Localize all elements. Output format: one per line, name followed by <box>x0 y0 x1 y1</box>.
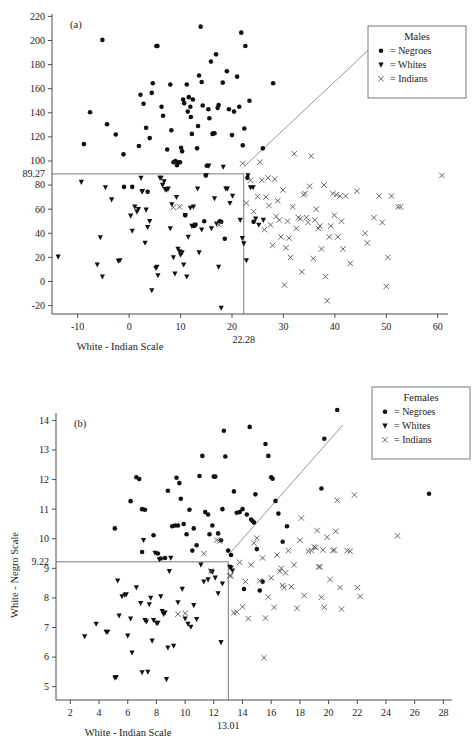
point-negroes <box>223 236 228 241</box>
point-negroes <box>191 526 196 531</box>
point-whites <box>195 186 200 191</box>
point-indians <box>322 605 327 610</box>
y-tick-label: 220 <box>30 11 45 22</box>
point-negroes <box>200 103 205 108</box>
point-indians <box>260 555 265 560</box>
y-axis-title: White - Negro Scale <box>9 532 20 618</box>
point-whites <box>172 271 177 276</box>
point-indians <box>297 538 302 543</box>
point-negroes <box>151 533 156 538</box>
point-indians <box>244 200 249 205</box>
point-indians <box>171 205 176 210</box>
point-negroes <box>187 95 192 100</box>
scatter-figure: -20020406080100120140160180200220-100102… <box>0 0 475 749</box>
point-indians <box>305 220 310 225</box>
point-negroes <box>179 497 184 502</box>
series-negroes <box>82 24 276 241</box>
point-indians <box>248 178 253 183</box>
point-whites <box>165 645 170 650</box>
point-negroes <box>245 512 250 517</box>
point-whites <box>230 194 235 199</box>
point-negroes <box>128 499 133 504</box>
point-indians <box>282 282 287 287</box>
point-whites <box>212 196 217 201</box>
x-tick-label: 12 <box>209 707 219 718</box>
point-negroes <box>210 523 215 528</box>
point-negroes <box>225 69 230 74</box>
point-negroes <box>197 474 202 479</box>
point-whites <box>196 250 201 255</box>
point-negroes <box>319 486 324 491</box>
x-axis-title: White - Indian Scale <box>85 727 172 738</box>
point-indians <box>307 184 312 189</box>
point-negroes <box>214 52 219 57</box>
x-tick-label: 18 <box>295 707 305 718</box>
point-whites <box>139 670 144 675</box>
point-negroes <box>240 507 245 512</box>
point-negroes <box>220 80 225 85</box>
y-tick-label: 80 <box>35 179 45 190</box>
point-negroes <box>195 146 200 151</box>
legend-entry-label: = Whites <box>394 420 430 431</box>
point-indians <box>319 246 324 251</box>
point-whites <box>174 195 179 200</box>
point-negroes <box>191 97 196 102</box>
point-whites <box>261 218 266 223</box>
point-whites <box>138 176 143 181</box>
x-tick-label: 30 <box>278 321 288 332</box>
point-negroes <box>144 126 149 131</box>
point-indians <box>379 220 384 225</box>
point-negroes <box>335 408 340 413</box>
point-indians <box>389 193 394 198</box>
y-tick-label: 6 <box>44 651 49 662</box>
point-indians <box>323 274 328 279</box>
point-negroes <box>100 38 105 43</box>
panel-a-plot: -20020406080100120140160180200220-100102… <box>0 0 475 375</box>
point-indians <box>352 492 357 497</box>
point-indians <box>354 188 359 193</box>
point-negroes <box>185 109 190 114</box>
point-indians <box>302 593 307 598</box>
point-indians <box>251 540 256 545</box>
point-indians <box>289 584 294 589</box>
point-legend <box>379 49 384 54</box>
point-whites <box>168 226 173 231</box>
point-whites <box>103 185 108 190</box>
point-whites <box>205 577 210 582</box>
point-whites <box>158 594 163 599</box>
point-indians <box>268 222 273 227</box>
point-indians <box>357 594 362 599</box>
series-whites <box>82 538 235 682</box>
point-negroes <box>235 74 240 79</box>
series-indians <box>175 492 400 660</box>
point-negroes <box>241 143 246 148</box>
point-whites <box>109 197 114 202</box>
point-indians <box>246 616 251 621</box>
point-negroes <box>212 131 217 136</box>
x-tick-label: 6 <box>125 707 130 718</box>
point-indians <box>328 223 333 228</box>
point-whites <box>221 165 226 170</box>
point-negroes <box>229 553 234 558</box>
x-tick-label: 50 <box>381 321 391 332</box>
x-tick-label: 24 <box>381 707 391 718</box>
point-indians <box>243 579 248 584</box>
point-whites <box>238 218 243 223</box>
point-whites <box>115 579 120 584</box>
point-indians <box>283 245 288 250</box>
point-indians <box>339 219 344 224</box>
point-indians <box>292 151 297 156</box>
point-negroes <box>141 101 146 106</box>
point-negroes <box>207 532 212 537</box>
y-tick-label: 10 <box>39 533 49 544</box>
point-whites <box>95 262 100 267</box>
point-indians <box>270 243 275 248</box>
point-indians <box>302 191 307 196</box>
point-indians <box>266 594 271 599</box>
y-tick-label: 180 <box>30 59 45 70</box>
point-whites <box>147 219 152 224</box>
point-indians <box>339 606 344 611</box>
point-whites <box>216 591 221 596</box>
point-whites <box>171 644 176 649</box>
x-tick-label: 20 <box>227 321 237 332</box>
